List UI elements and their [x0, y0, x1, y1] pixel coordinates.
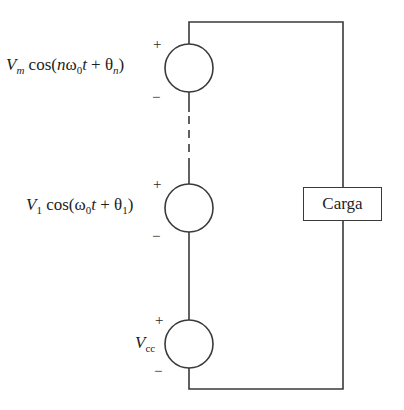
- positive-terminal-sign: +: [153, 177, 161, 192]
- omega-symbol: ω: [74, 195, 85, 214]
- right-lower-wire: [189, 221, 343, 389]
- voltage-source-fundamental: [165, 184, 213, 232]
- source-fundamental-label: V1 cos(ω0t + θ1): [26, 196, 133, 216]
- load-label: Carga: [322, 194, 362, 214]
- source-nth-harmonic-label: Vm cos(nω0t + θn): [6, 56, 124, 76]
- theta-symbol: θ: [114, 195, 122, 214]
- voltage-source-dc: [165, 320, 213, 368]
- close-paren: ): [128, 195, 134, 214]
- top-wire: [189, 22, 343, 187]
- amplitude-symbol: V: [135, 333, 145, 352]
- negative-terminal-sign: −: [154, 364, 162, 379]
- cos-function: cos(: [42, 195, 75, 214]
- theta-symbol: θ: [105, 55, 113, 74]
- plus-operator: +: [96, 195, 114, 214]
- plus-operator: +: [87, 55, 105, 74]
- negative-terminal-sign: −: [152, 90, 160, 105]
- positive-terminal-sign: +: [153, 37, 161, 52]
- load-box: Carga: [303, 187, 382, 221]
- cos-function: cos(: [29, 55, 57, 74]
- circuit-diagram: Vm cos(nω0t + θn) + − V1 cos(ω0t + θ1) +…: [0, 0, 404, 410]
- voltage-source-nth-harmonic: [165, 44, 213, 92]
- positive-terminal-sign: +: [155, 313, 163, 328]
- omega-symbol: ω: [65, 55, 76, 74]
- source-dc-label: Vcc: [135, 334, 155, 354]
- amplitude-symbol: V: [26, 195, 36, 214]
- close-paren: ): [119, 55, 125, 74]
- amplitude-subscript: cc: [145, 342, 155, 354]
- amplitude-subscript: m: [16, 64, 24, 76]
- negative-terminal-sign: −: [152, 229, 160, 244]
- amplitude-symbol: V: [6, 55, 16, 74]
